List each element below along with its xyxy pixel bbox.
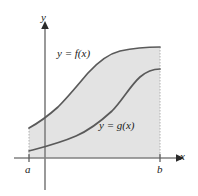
curve-f-label: y = f(x) xyxy=(57,47,90,59)
shaded-region-under-f xyxy=(29,47,160,158)
x-axis-label: x xyxy=(180,150,185,162)
y-axis-label: y xyxy=(41,11,46,23)
lower-limit-label: a xyxy=(25,163,31,175)
upper-limit-label: b xyxy=(157,163,163,175)
calculus-area-figure: y = f(x) y = g(x) y x a b xyxy=(0,0,198,196)
curve-g-label: y = g(x) xyxy=(99,119,135,131)
